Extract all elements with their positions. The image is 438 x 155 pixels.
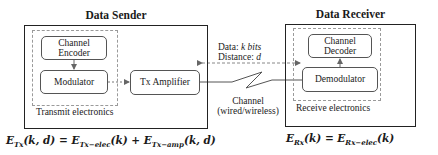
eq-rx-t1-args: (k)	[377, 132, 394, 144]
channel-encoder-block: Channel Encoder	[41, 36, 107, 60]
eq-tx-t1-args: (k)	[110, 134, 127, 146]
eq-rx-lhs-args: (k)	[304, 132, 321, 144]
data-size-label: Data: k bits	[218, 42, 261, 52]
channel-label: Channel	[208, 96, 288, 106]
eq-rx-t1-sub: Rx−elec	[345, 138, 377, 147]
channel-type-label: (wired/wireless)	[205, 106, 291, 116]
channel-decoder-label: Channel Decoder	[315, 36, 365, 57]
demodulator-label: Demodulator	[315, 74, 365, 85]
channel-encoder-label: Channel Encoder	[49, 38, 99, 59]
distance-var: d	[256, 52, 261, 62]
channel-decoder-block: Channel Decoder	[308, 34, 372, 58]
demodulator-block: Demodulator	[302, 67, 378, 92]
eq-tx-equals: =	[55, 134, 71, 146]
receiver-title: Data Receiver	[285, 8, 416, 20]
eq-tx-t2-args: (k, d)	[184, 134, 216, 146]
eq-rx-lhs-sub: Rx	[294, 138, 304, 147]
eq-tx-t2: E	[144, 134, 152, 146]
receive-electronics-label: Receive electronics	[296, 103, 370, 113]
modulator-block: Modulator	[40, 70, 108, 94]
eq-tx-lhs-sub: Tx	[14, 140, 23, 149]
tx-amplifier-label: Tx Amplifier	[140, 77, 190, 88]
eq-rx-equals: =	[321, 132, 337, 144]
distance-label-text: Distance:	[218, 52, 256, 62]
eq-tx-lhs-args: (k, d)	[23, 134, 55, 146]
data-label-text: Data:	[218, 42, 241, 52]
data-var: k bits	[241, 42, 261, 52]
transmit-electronics-label: Transmit electronics	[36, 107, 113, 117]
distance-label: Distance: d	[218, 52, 261, 62]
eq-tx-lhs: E	[6, 134, 14, 146]
eq-rx-lhs: E	[286, 132, 294, 144]
tx-energy-equation: ETx(k, d) = ETx−elec(k) + ETx−amp(k, d)	[6, 134, 216, 149]
rx-energy-equation: ERx(k) = ERx−elec(k)	[286, 132, 394, 147]
eq-tx-t1-sub: Tx−elec	[79, 140, 110, 149]
modulator-label: Modulator	[54, 77, 94, 88]
tx-amplifier-block: Tx Amplifier	[130, 70, 200, 95]
eq-tx-t2-sub: Tx−amp	[152, 140, 184, 149]
sender-title: Data Sender	[24, 9, 208, 21]
eq-tx-plus: +	[128, 134, 144, 146]
